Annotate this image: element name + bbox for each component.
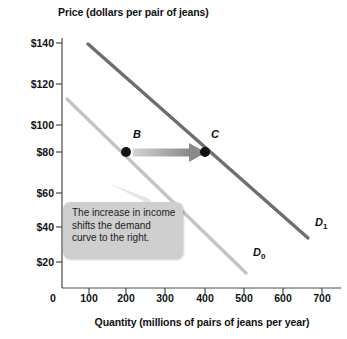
x-tick-label-200: 200 xyxy=(106,292,146,304)
y-tick-label-20: $20 xyxy=(8,256,54,268)
curve-label-d1: D1 xyxy=(315,216,327,231)
callout-box: The increase in income shifts the demand… xyxy=(63,202,183,259)
x-tick-label-0: 0 xyxy=(43,292,63,304)
demand-shift-chart: Price (dollars per pair of jeans) xyxy=(0,0,347,339)
point-b-label: B xyxy=(133,128,141,140)
x-tick-label-300: 300 xyxy=(145,292,185,304)
y-tick-label-60: $60 xyxy=(8,187,54,199)
y-tick-label-80: $80 xyxy=(8,146,54,158)
x-tick-label-700: 700 xyxy=(302,292,342,304)
curve-label-d1-letter: D xyxy=(315,216,323,228)
shift-arrow xyxy=(133,143,206,162)
point-b-marker xyxy=(121,147,131,157)
curve-label-d0: D0 xyxy=(253,246,265,261)
callout-text: The increase in income shifts the demand… xyxy=(72,207,176,245)
x-tick-label-400: 400 xyxy=(185,292,225,304)
plot-area xyxy=(0,0,347,339)
x-tick-label-100: 100 xyxy=(69,292,109,304)
y-tick-label-120: $120 xyxy=(8,78,54,90)
curve-label-d0-sub: 0 xyxy=(261,252,265,261)
curve-label-d0-letter: D xyxy=(253,246,261,258)
x-tick-label-500: 500 xyxy=(224,292,264,304)
point-c-label: C xyxy=(211,128,219,140)
y-tick-label-40: $40 xyxy=(8,221,54,233)
y-tick-label-100: $100 xyxy=(8,119,54,131)
x-axis-title: Quantity (millions of pairs of jeans per… xyxy=(62,316,342,328)
y-tick-label-140: $140 xyxy=(8,37,54,49)
curve-label-d1-sub: 1 xyxy=(323,222,327,231)
x-tick-label-600: 600 xyxy=(263,292,303,304)
point-c-marker xyxy=(200,147,210,157)
